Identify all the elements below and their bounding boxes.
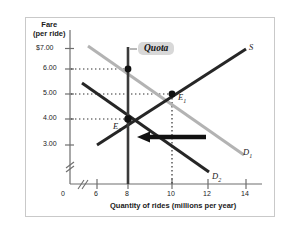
y-tick-label-5: 5.00 <box>43 89 57 97</box>
x-tick-label-0: 0 <box>61 190 65 198</box>
equilibrium-e2-label-sub: 2 <box>118 127 121 133</box>
supply-curve-label: S <box>249 43 253 53</box>
x-tick-label-6: 6 <box>94 190 98 198</box>
point-equilibrium-e1 <box>169 91 176 98</box>
equilibrium-e2-label: E2 <box>113 122 121 134</box>
point-quota-on-d1 <box>125 66 132 73</box>
y-axis-title-line2: (per ride) <box>33 30 66 39</box>
demand-shift-arrow <box>137 132 206 143</box>
y-tick-label-4: 4.00 <box>43 114 57 122</box>
x-axis-title: Quantity of rides (millions per year) <box>110 202 236 211</box>
y-tick-label-7: $7.00 <box>36 44 54 52</box>
demand1-curve-label-sub: 1 <box>249 153 252 159</box>
x-tick-label-8: 8 <box>125 190 129 198</box>
equilibrium-e1-label: E1 <box>178 93 186 105</box>
y-tick-label-3: 3.00 <box>43 140 57 148</box>
figure-container: Fare (per ride) $7.00 6.00 5.00 4.00 3.0… <box>0 0 288 233</box>
demand2-curve-label: D2 <box>212 172 221 184</box>
demand-curve-d2 <box>82 83 209 172</box>
quota-annotation-badge: Quota <box>138 42 174 55</box>
demand2-curve-label-sub: 2 <box>218 177 221 183</box>
y-tick-label-6: 6.00 <box>43 64 57 72</box>
point-equilibrium-e2 <box>124 115 132 123</box>
x-tick-label-12: 12 <box>203 190 211 198</box>
equilibrium-e1-label-sub: 1 <box>183 98 186 104</box>
y-axis-title: Fare (per ride) <box>33 21 66 38</box>
demand1-curve-label: D1 <box>243 148 252 160</box>
x-tick-label-14: 14 <box>241 190 249 198</box>
x-tick-label-10: 10 <box>167 190 175 198</box>
